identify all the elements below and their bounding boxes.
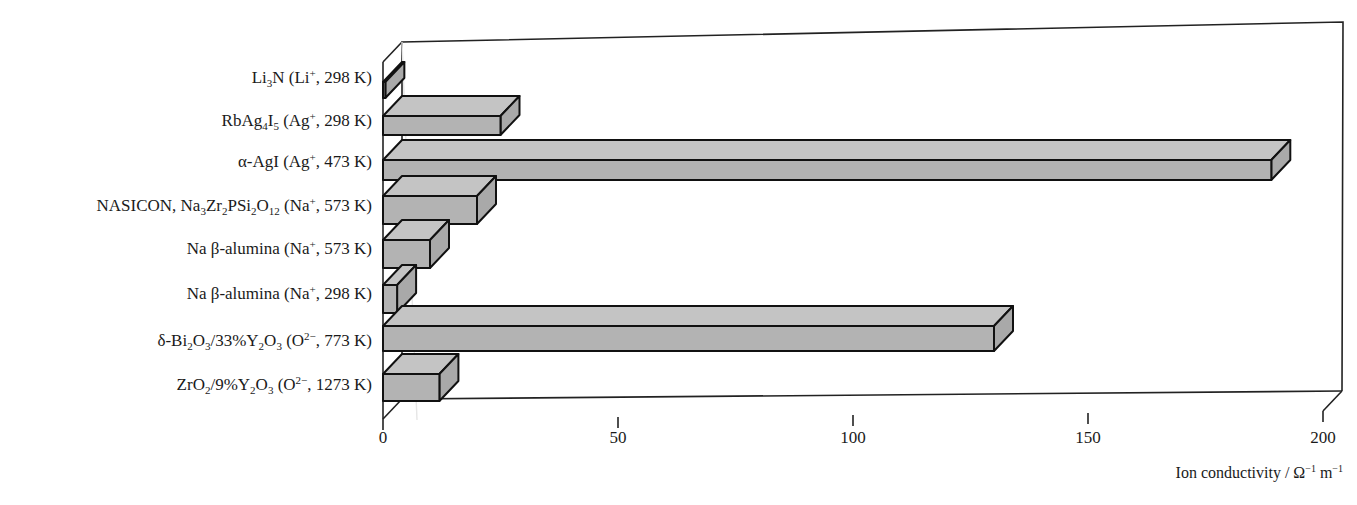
category-label-bi2o3-y2o3: δ-Bi2O3/33%Y2O3 (O2−, 773 K) xyxy=(157,331,372,351)
x-tick-label-200: 200 xyxy=(1310,428,1336,448)
category-label-zro2-y2o3: ZrO2/9%Y2O3 (O2−, 1273 K) xyxy=(177,375,372,395)
chart-frame xyxy=(383,22,1343,420)
x-tick-label-0: 0 xyxy=(379,428,388,448)
bar-0 xyxy=(383,62,404,98)
x-tick-label-100: 100 xyxy=(840,428,866,448)
bar-7 xyxy=(383,354,458,401)
category-label-li3n: Li3N (Li+, 298 K) xyxy=(252,68,372,88)
category-label-rbag4i5: RbAg4I5 (Ag+, 298 K) xyxy=(222,111,372,131)
bar-4 xyxy=(383,220,449,268)
bar-3 xyxy=(383,176,496,224)
bar-6 xyxy=(383,306,1013,351)
bar-1 xyxy=(383,96,520,135)
x-tick-label-150: 150 xyxy=(1075,428,1101,448)
category-label-alpha-agi: α-AgI (Ag+, 473 K) xyxy=(238,152,372,172)
category-label-na-beta-alumina-298k: Na β-alumina (Na+, 298 K) xyxy=(187,284,372,304)
category-label-na-beta-alumina-573k: Na β-alumina (Na+, 573 K) xyxy=(187,239,372,259)
bars-group xyxy=(383,62,1290,401)
bar-2 xyxy=(383,140,1290,180)
x-tick-label-50: 50 xyxy=(610,428,627,448)
category-label-nasicon: NASICON, Na3Zr2PSi2O12 (Na+, 573 K) xyxy=(96,196,372,216)
x-axis-title: Ion conductivity / Ω−1 m−1 xyxy=(1176,464,1343,482)
